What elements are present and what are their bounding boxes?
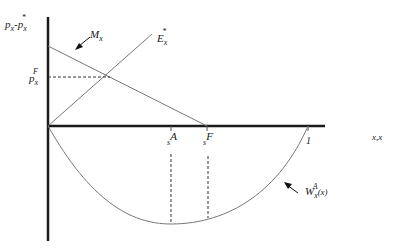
sf-label: sF [203,130,213,147]
w-label: WxA(x) [305,182,328,200]
price-label: pxF [28,67,39,87]
sa-label: sA [167,130,177,147]
w-curve [48,126,308,224]
one-label: 1 [306,135,311,146]
y-axis-label: px-px* [4,13,27,33]
mx-curve [48,46,207,126]
x-axis-label: x,x [371,132,382,142]
ex-label: Ex* [156,27,168,47]
ex-curve [48,34,152,126]
mx-label: Mx [89,28,103,43]
diagram-canvas: px-px* Mx Ex* pxF sA sF 1 x,x WxA(x) [0,0,403,251]
